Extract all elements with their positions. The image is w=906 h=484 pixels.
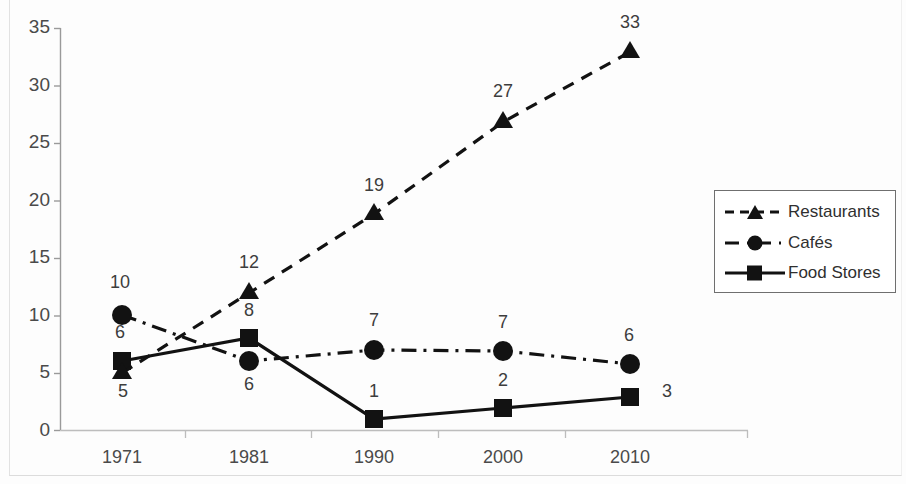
data-label-cafes-2000: 7 <box>483 312 523 333</box>
restaurants-marker-1981 <box>239 282 259 299</box>
legend-key-cafes <box>724 230 786 256</box>
chart-legend: Restaurants Cafés Food Stores <box>714 190 896 293</box>
food-stores-marker-2000 <box>494 399 512 417</box>
data-label-restaurants-1981: 12 <box>229 252 269 273</box>
data-label-cafes-1971: 10 <box>100 272 140 293</box>
legend-label-restaurants: Restaurants <box>788 202 880 222</box>
data-label-cafes-1981: 6 <box>229 374 269 395</box>
legend-label-food-stores: Food Stores <box>788 263 881 283</box>
food-stores-marker-2010 <box>621 388 639 406</box>
data-label-restaurants-1990: 19 <box>354 175 394 196</box>
legend-item-food-stores[interactable]: Food Stores <box>715 258 897 288</box>
legend-label-cafes: Cafés <box>788 233 832 253</box>
food-stores-marker-1990 <box>365 410 383 428</box>
data-label-food-stores-2000: 2 <box>483 370 523 391</box>
line-chart: 35 30 25 20 15 10 5 0 1971 1981 1990 200… <box>0 0 906 484</box>
data-label-food-stores-1990: 1 <box>354 381 394 402</box>
data-label-restaurants-2010: 33 <box>610 12 650 33</box>
data-label-restaurants-1971: 5 <box>103 381 143 402</box>
data-label-cafes-2010: 6 <box>609 325 649 346</box>
cafes-marker-2000 <box>493 341 513 361</box>
restaurants-marker-1990 <box>364 203 384 220</box>
restaurants-marker-2010 <box>620 41 640 58</box>
data-label-cafes-1990: 7 <box>354 310 394 331</box>
cafes-marker-1990 <box>364 340 384 360</box>
data-label-food-stores-1971: 6 <box>100 322 140 343</box>
cafes-marker-2010 <box>620 354 640 374</box>
cafes-marker-1981 <box>239 351 259 371</box>
data-label-food-stores-2010: 3 <box>647 381 687 402</box>
data-label-restaurants-2000: 27 <box>483 81 523 102</box>
data-label-food-stores-1981: 8 <box>229 300 269 321</box>
food-stores-marker-1981 <box>240 329 258 347</box>
legend-item-cafes[interactable]: Cafés <box>715 228 897 258</box>
legend-key-restaurants <box>724 199 786 225</box>
legend-item-restaurants[interactable]: Restaurants <box>715 197 897 227</box>
legend-key-food-stores <box>724 260 786 286</box>
